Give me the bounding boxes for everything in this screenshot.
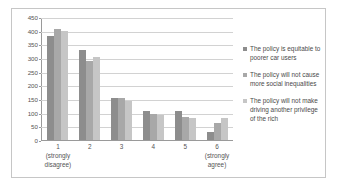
x-axis-category-number: 2 — [74, 142, 106, 151]
x-axis-labels: 1(stronglydisagree)23456(stronglyagree) — [42, 142, 233, 169]
bar — [118, 98, 125, 140]
legend-item-label: The policy is equitable to poorer car us… — [250, 45, 323, 62]
y-axis-tick-label: 300 — [28, 56, 38, 62]
y-axis-tick-mark — [39, 141, 41, 142]
bar — [143, 111, 150, 140]
bar — [182, 117, 189, 140]
y-axis-tick-mark — [39, 32, 41, 33]
y-axis-tick-mark — [39, 59, 41, 60]
bar — [86, 61, 93, 140]
x-axis-category-number: 4 — [137, 142, 169, 151]
legend-item[interactable]: The policy is equitable to poorer car us… — [243, 45, 323, 62]
x-axis-category-sublabel: agree) — [201, 160, 233, 169]
x-axis-category-number: 3 — [106, 142, 138, 151]
y-axis-tick-label: 400 — [28, 29, 38, 35]
legend-item-label: The policy will not make driving another… — [250, 97, 323, 123]
legend-item[interactable]: The policy will not make driving another… — [243, 97, 323, 123]
y-axis-tick-mark — [39, 127, 41, 128]
bar — [175, 111, 182, 140]
y-axis-tick-mark — [39, 86, 41, 87]
y-axis-tick-mark — [39, 100, 41, 101]
x-axis-category-number: 5 — [169, 142, 201, 151]
x-axis-category-sublabel: (strongly — [42, 151, 74, 160]
bar — [189, 118, 196, 140]
bar — [79, 50, 86, 140]
bar — [54, 29, 61, 140]
bar — [111, 98, 118, 140]
y-axis-tick-label: 200 — [28, 83, 38, 89]
x-axis-category-sublabel: disagree) — [42, 160, 74, 169]
y-axis-tick-label: 50 — [31, 124, 38, 130]
y-axis-tick-mark — [39, 45, 41, 46]
x-axis-category-sublabel: (strongly — [201, 151, 233, 160]
x-axis-category-number: 6 — [201, 142, 233, 151]
legend-swatch-icon — [243, 47, 247, 51]
y-axis-tick-label: 100 — [28, 111, 38, 117]
y-axis-tick-mark — [39, 73, 41, 74]
bar — [214, 123, 221, 140]
bar — [150, 114, 157, 141]
y-axis-tick-label: 450 — [28, 15, 38, 21]
bar — [207, 132, 214, 140]
bar-group — [201, 18, 233, 140]
y-axis-tick-label: 350 — [28, 42, 38, 48]
bar-chart-figure: 050100150200250300350400450 1(stronglydi… — [11, 8, 326, 178]
bar-group — [169, 18, 201, 140]
x-axis-category: 6(stronglyagree) — [201, 142, 233, 169]
bar — [93, 57, 100, 140]
bar — [47, 36, 54, 140]
x-axis-category: 4 — [137, 142, 169, 169]
y-axis-tick-label: 150 — [28, 97, 38, 103]
bars-layer — [42, 18, 233, 140]
legend-item[interactable]: The policy will not cause more social in… — [243, 71, 323, 88]
y-axis-tick-mark — [39, 114, 41, 115]
chart-legend: The policy is equitable to poorer car us… — [243, 45, 323, 132]
bar — [61, 31, 68, 140]
legend-swatch-icon — [243, 99, 247, 103]
x-axis-category: 2 — [74, 142, 106, 169]
bar — [157, 115, 164, 140]
bar-group — [42, 18, 74, 140]
bar-group — [137, 18, 169, 140]
y-axis-tick-label: 250 — [28, 70, 38, 76]
bar-group — [74, 18, 106, 140]
bar-group — [106, 18, 138, 140]
legend-swatch-icon — [243, 73, 247, 77]
y-axis-tick-mark — [39, 18, 41, 19]
x-axis-category: 5 — [169, 142, 201, 169]
x-axis-category: 3 — [106, 142, 138, 169]
y-axis-tick-label: 0 — [35, 138, 38, 144]
legend-item-label: The policy will not cause more social in… — [250, 71, 323, 88]
x-axis-category-number: 1 — [42, 142, 74, 151]
bar — [125, 101, 132, 140]
bar — [221, 118, 228, 140]
x-axis-category: 1(stronglydisagree) — [42, 142, 74, 169]
plot-area: 050100150200250300350400450 — [41, 18, 233, 141]
